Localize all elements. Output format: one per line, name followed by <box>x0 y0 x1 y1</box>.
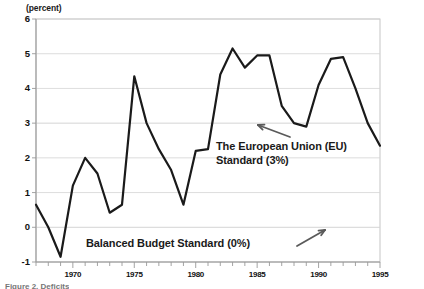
y-tick-label: 0 <box>6 221 30 232</box>
y-tick-label: 4 <box>6 82 30 93</box>
figure-container: (percent) 6543210-1 19701975198019851990… <box>0 0 424 289</box>
y-tick-marks <box>32 19 36 262</box>
x-tick-label: 1975 <box>114 270 154 279</box>
x-tick-marks <box>36 262 380 268</box>
y-tick-label: 5 <box>6 48 30 59</box>
y-axis-unit-label: (percent) <box>26 3 61 13</box>
x-tick-label: 1990 <box>299 270 339 279</box>
y-tick-label: 2 <box>6 152 30 163</box>
annotation-balanced-budget: Balanced Budget Standard (0%) <box>86 237 250 251</box>
annotation-eu-standard: The European Union (EU) Standard (3%) <box>216 140 347 167</box>
x-tick-label: 1985 <box>237 270 277 279</box>
y-tick-label: -1 <box>6 256 30 267</box>
y-tick-label: 1 <box>6 187 30 198</box>
annotation-bb-line1: Balanced Budget Standard (0%) <box>86 237 250 251</box>
annotation-eu-line2: Standard (3%) <box>216 154 347 168</box>
annotation-eu-line1: The European Union (EU) <box>216 140 347 154</box>
y-tick-label: 6 <box>6 13 30 24</box>
x-tick-label: 1970 <box>53 270 93 279</box>
x-tick-label: 1995 <box>360 270 400 279</box>
y-tick-label: 3 <box>6 117 30 128</box>
x-tick-label: 1980 <box>176 270 216 279</box>
figure-caption-clipped: Figure 2. Deficits <box>5 282 69 289</box>
